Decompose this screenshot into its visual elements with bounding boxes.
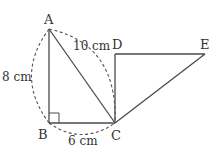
geometry-diagram: A B C D E 8 cm 6 cm 10 cm: [0, 0, 220, 152]
measurement-ac: 10 cm: [73, 39, 111, 53]
point-label-a: A: [43, 12, 54, 27]
point-label-b: B: [38, 127, 48, 142]
measurement-bc: 6 cm: [68, 134, 98, 148]
right-angle-marker: [49, 113, 59, 123]
point-label-e: E: [200, 37, 210, 52]
dimension-arc-bc: [49, 123, 115, 135]
measurement-ab: 8 cm: [2, 70, 32, 84]
dimension-arc-ab: [32, 29, 50, 123]
segment-ce: [115, 54, 205, 123]
point-label-c: C: [111, 128, 121, 143]
point-label-d: D: [112, 37, 122, 52]
